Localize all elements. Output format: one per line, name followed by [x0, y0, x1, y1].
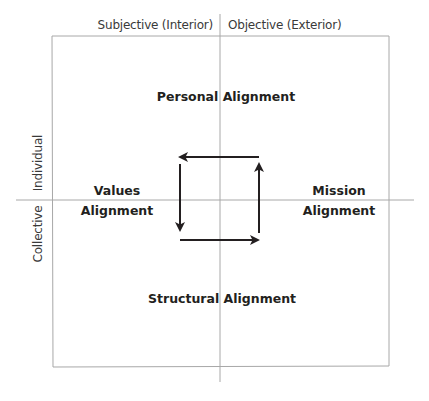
subjective-interior-label: Subjective (Interior): [98, 18, 213, 32]
mission-alignment-line1: Mission: [294, 181, 384, 201]
values-alignment-label: Values Alignment: [72, 181, 162, 221]
values-alignment-line1: Values: [72, 181, 162, 201]
values-alignment-line2: Alignment: [72, 201, 162, 221]
mission-alignment-label: Mission Alignment: [294, 181, 384, 221]
alignment-quadrant-diagram: Subjective (Interior) Objective (Exterio…: [0, 0, 429, 401]
structural-alignment-label: Structural Alignment: [136, 289, 308, 309]
objective-exterior-label: Objective (Exterior): [228, 18, 341, 32]
mission-alignment-line2: Alignment: [294, 201, 384, 221]
collective-label: Collective: [31, 202, 45, 266]
individual-label: Individual: [31, 131, 45, 195]
personal-alignment-label: Personal Alignment: [146, 87, 306, 107]
